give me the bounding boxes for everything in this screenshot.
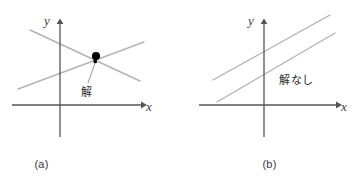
panel-b-y-axis-label: y xyxy=(248,13,254,29)
panel-b: y x 解なし (b) xyxy=(179,0,358,187)
panel-a-y-axis-label: y xyxy=(44,13,50,29)
line-rising xyxy=(18,42,144,89)
intersection-point-tail xyxy=(94,60,97,64)
solution-leader-line xyxy=(88,63,95,83)
figure-root: y x 解 (a) y x 解なし (b) xyxy=(0,0,358,187)
panel-b-caption: (b) xyxy=(180,158,358,170)
no-solution-annotation-label: 解なし xyxy=(279,71,314,87)
y-axis-arrow-icon xyxy=(261,19,268,25)
line-falling xyxy=(30,30,140,81)
panel-a-graph xyxy=(0,0,179,150)
solution-annotation-label: 解 xyxy=(81,83,93,99)
intersection-point xyxy=(92,52,100,60)
y-axis-arrow-icon xyxy=(57,19,64,25)
panel-a-x-axis-label: x xyxy=(146,99,152,115)
panel-a-caption: (a) xyxy=(0,158,131,170)
panel-a: y x 解 (a) xyxy=(0,0,179,187)
panel-b-graph xyxy=(179,0,358,150)
panel-b-x-axis-label: x xyxy=(341,99,347,115)
